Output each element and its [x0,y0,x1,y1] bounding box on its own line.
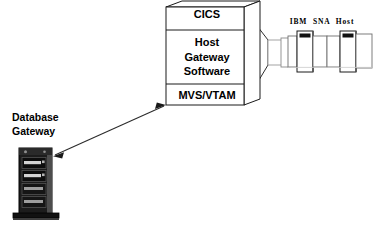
mainframe-caption: IBM SNA Host [276,18,368,27]
mainframe-cabinet[interactable] [288,31,372,72]
stack-layer-label-mvs-vtam: MVS/VTAM [168,89,246,102]
diagram-canvas: CICS Host Gateway Software MVS/VTAM IBM … [0,0,377,231]
database-gateway-tower[interactable] [13,148,59,220]
stack-layer-label-cics: CICS [170,8,244,21]
stack-layer-label-host-gateway-software: Host Gateway Software [170,35,244,79]
database-gateway-caption: Database Gateway [12,110,102,139]
